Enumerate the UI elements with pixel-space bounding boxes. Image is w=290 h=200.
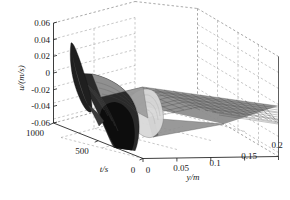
y-tick-label: 0 <box>146 165 151 175</box>
t-tick-label: 500 <box>75 146 89 156</box>
z-tick-label: -0.02 <box>31 85 50 95</box>
y-tick-label: 0.15 <box>241 151 257 161</box>
z-tick-label: 0 <box>46 68 51 78</box>
y-axis-label: y/m <box>186 172 200 182</box>
plot-canvas: 0.06 0.04 0.02 0 -0.02 -0.04 -0.06 1000 … <box>0 0 290 200</box>
z-tick-label: -0.06 <box>31 118 50 128</box>
t-tick-label: 1000 <box>26 128 45 138</box>
figure-3d-surface-plot: 0.06 0.04 0.02 0 -0.02 -0.04 -0.06 1000 … <box>0 0 290 200</box>
z-tick-label: -0.04 <box>31 101 50 111</box>
y-tick-label: 0.2 <box>271 140 282 150</box>
z-axis-label: u/(m/s) <box>16 65 26 91</box>
t-axis-label: t/s <box>100 164 109 174</box>
z-tick-label: 0.06 <box>34 18 50 28</box>
t-tick-label: 0 <box>131 165 136 175</box>
y-tick-label: 0.1 <box>209 158 220 168</box>
z-tick-label: 0.02 <box>34 51 50 61</box>
z-tick-label: 0.04 <box>34 35 50 45</box>
